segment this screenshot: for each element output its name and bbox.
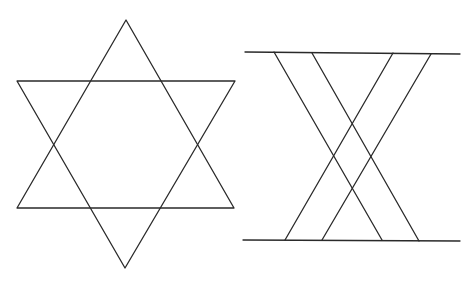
- diagram-canvas: [0, 0, 461, 288]
- upward-triangle: [17, 20, 234, 208]
- downward-triangle: [17, 81, 235, 268]
- bottom-line: [243, 240, 460, 241]
- hexagram-figure: [17, 20, 235, 268]
- crossing-lines-figure: [243, 52, 460, 241]
- top-line: [245, 52, 460, 54]
